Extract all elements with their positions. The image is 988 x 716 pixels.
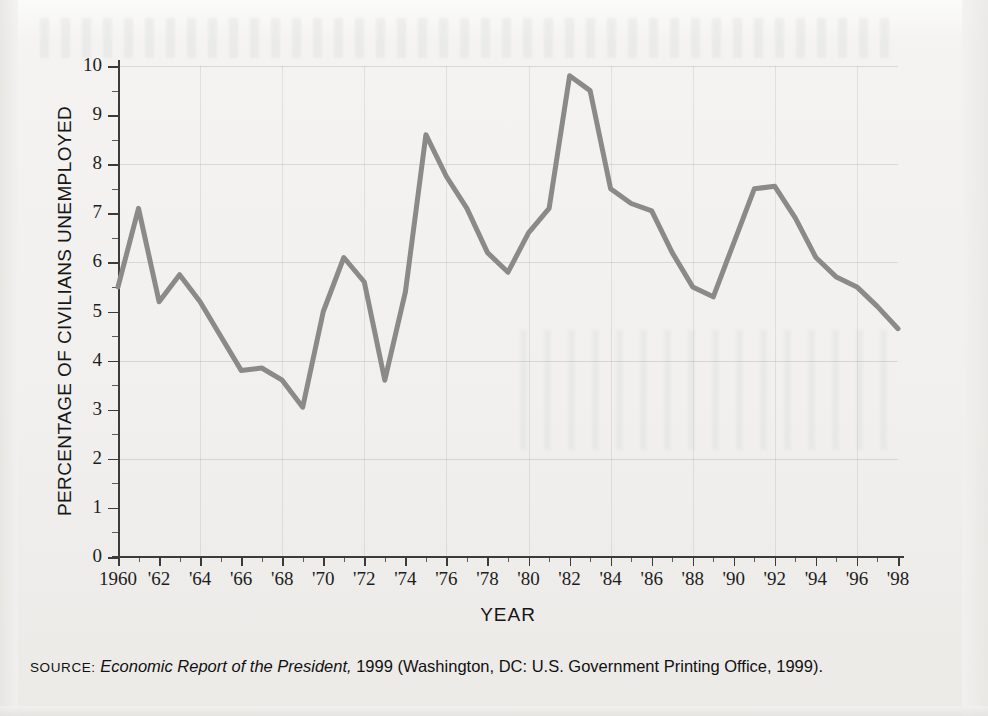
y-tick — [108, 262, 118, 264]
y-tick — [108, 312, 118, 314]
x-tick — [405, 557, 407, 566]
gridline-vertical — [775, 66, 776, 557]
x-tick — [200, 557, 202, 566]
x-tick — [611, 557, 613, 566]
y-tick — [108, 115, 118, 117]
y-tick — [108, 508, 118, 510]
unemployment-line-chart: 012345678910 1960'62'64'66'68'70'72'74'7… — [0, 0, 988, 716]
y-tick — [108, 164, 118, 166]
source-label: SOURCE: — [30, 660, 96, 675]
x-tick — [159, 557, 161, 566]
y-axis-title: PERCENTAGE OF CIVILIANS UNEMPLOYED — [54, 76, 76, 546]
y-axis-line — [118, 60, 120, 563]
y-tick-label: 0 — [70, 545, 102, 567]
x-tick-label: '76 — [435, 568, 457, 590]
x-tick-label: '78 — [476, 568, 498, 590]
x-tick-label: '70 — [312, 568, 334, 590]
x-tick-label: '98 — [887, 568, 909, 590]
x-tick-label: '82 — [558, 568, 580, 590]
x-tick — [816, 557, 818, 566]
x-tick-label: '72 — [353, 568, 375, 590]
x-tick — [775, 557, 777, 566]
y-tick — [108, 213, 118, 215]
x-tick — [693, 557, 695, 566]
gridline-vertical — [282, 66, 283, 557]
x-tick-label: '64 — [189, 568, 211, 590]
x-tick-label: '92 — [764, 568, 786, 590]
x-axis-line — [112, 556, 904, 558]
x-tick-label: '96 — [846, 568, 868, 590]
x-tick — [570, 557, 572, 566]
gridline-vertical — [200, 66, 201, 557]
source-rest: 1999 (Washington, DC: U.S. Government Pr… — [352, 657, 823, 675]
x-tick-label: '74 — [394, 568, 416, 590]
x-tick-label: '86 — [640, 568, 662, 590]
y-tick — [108, 66, 118, 68]
y-tick — [108, 459, 118, 461]
x-tick — [734, 557, 736, 566]
x-tick — [241, 557, 243, 566]
x-tick-label: '62 — [148, 568, 170, 590]
x-tick — [446, 557, 448, 566]
gridline-horizontal — [118, 361, 898, 362]
x-tick — [898, 557, 900, 566]
gridline-horizontal — [118, 262, 898, 263]
gridline-vertical — [529, 66, 530, 557]
gridline-vertical — [693, 66, 694, 557]
y-tick-label: 10 — [70, 54, 102, 76]
gridline-vertical — [611, 66, 612, 557]
source-caption: SOURCE: Economic Report of the President… — [30, 655, 935, 679]
x-tick-label: '94 — [805, 568, 827, 590]
gridline-horizontal — [118, 459, 898, 460]
x-tick-label: 1960 — [99, 568, 137, 590]
gridline-horizontal — [118, 164, 898, 165]
y-tick — [108, 410, 118, 412]
gridline-vertical — [364, 66, 365, 557]
x-tick — [323, 557, 325, 566]
x-tick — [364, 557, 366, 566]
x-tick — [487, 557, 489, 566]
gridline-vertical — [446, 66, 447, 557]
x-tick-label: '88 — [682, 568, 704, 590]
y-tick — [108, 361, 118, 363]
x-tick — [529, 557, 531, 566]
x-tick — [857, 557, 859, 566]
x-tick-label: '80 — [517, 568, 539, 590]
x-tick — [282, 557, 284, 566]
x-tick-label: '66 — [230, 568, 252, 590]
source-title: Economic Report of the President, — [100, 657, 351, 675]
x-tick-label: '90 — [723, 568, 745, 590]
gridline-horizontal — [118, 66, 898, 67]
x-tick-label: '84 — [599, 568, 621, 590]
x-axis-title: YEAR — [118, 604, 898, 626]
x-tick — [652, 557, 654, 566]
gridline-vertical — [857, 66, 858, 557]
x-tick-label: '68 — [271, 568, 293, 590]
